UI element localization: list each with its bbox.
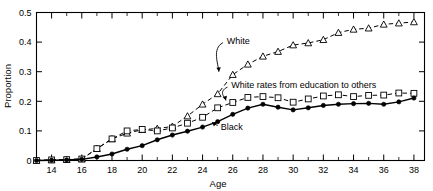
data-point-filled-circle — [80, 157, 84, 161]
data-point-open-square — [411, 90, 417, 96]
data-point-filled-circle — [200, 125, 204, 129]
y-tick-label: 0.2 — [19, 97, 32, 107]
data-point-open-square — [139, 127, 145, 133]
data-point-filled-circle — [231, 112, 235, 116]
y-tick-label: 0.3 — [19, 67, 32, 77]
x-tick-label: 30 — [288, 165, 298, 175]
data-point-open-triangle — [199, 101, 206, 107]
data-point-filled-circle — [351, 102, 355, 106]
data-point-filled-circle — [246, 106, 250, 110]
data-point-filled-circle — [412, 96, 416, 100]
data-point-filled-circle — [65, 158, 69, 162]
data-point-open-square — [230, 100, 236, 106]
data-series-group — [33, 19, 417, 164]
y-axis-label: Proportion — [2, 64, 13, 108]
series-markers — [33, 19, 417, 164]
data-point-open-square — [154, 128, 160, 134]
data-point-filled-circle — [95, 155, 99, 159]
y-tick-label: 0 — [26, 156, 31, 166]
data-point-open-square — [260, 94, 266, 100]
x-tick-label: 26 — [228, 165, 238, 175]
data-point-open-square — [109, 136, 115, 142]
x-tick-label: 34 — [349, 165, 359, 175]
chart-root: 00.10.20.30.40.5 14161820222426283032343… — [0, 0, 433, 191]
x-tick-label: 32 — [318, 165, 328, 175]
data-point-open-square — [336, 92, 342, 98]
data-point-open-square — [245, 95, 251, 101]
data-point-open-square — [396, 90, 402, 96]
data-point-filled-circle — [34, 158, 38, 162]
data-point-filled-circle — [185, 129, 189, 133]
data-point-filled-circle — [261, 102, 265, 106]
data-point-open-square — [200, 114, 206, 120]
data-point-filled-circle — [155, 138, 159, 142]
data-point-filled-circle — [49, 158, 53, 162]
data-point-open-square — [124, 128, 130, 134]
series-annotations: WhiteWhite rates from education to other… — [212, 36, 377, 132]
data-point-open-square — [305, 96, 311, 102]
data-point-open-square — [94, 146, 100, 152]
x-tick-label: 24 — [198, 165, 208, 175]
x-tick-label: 18 — [107, 165, 117, 175]
data-point-filled-circle — [336, 102, 340, 106]
data-point-open-square — [351, 94, 357, 100]
data-point-filled-circle — [306, 106, 310, 110]
annotation-label: White rates from education to others — [231, 80, 377, 90]
data-point-filled-circle — [276, 105, 280, 109]
annotation-label: White — [227, 36, 250, 46]
data-point-open-triangle — [244, 61, 251, 67]
x-tick-label: 22 — [167, 165, 177, 175]
y-tick-label: 0.5 — [19, 8, 32, 18]
series-1 — [33, 19, 417, 164]
x-axis-label: Age — [210, 178, 227, 189]
annotation-arrowhead — [216, 67, 220, 71]
x-tick-label: 36 — [379, 165, 389, 175]
data-point-filled-circle — [321, 103, 325, 107]
data-point-open-square — [185, 120, 191, 126]
data-point-open-triangle — [320, 36, 327, 42]
x-tick-label: 16 — [77, 165, 87, 175]
data-point-open-square — [275, 95, 281, 101]
annotation-leader-line — [216, 43, 223, 72]
data-point-open-square — [366, 92, 372, 98]
data-point-filled-circle — [110, 152, 114, 156]
data-point-open-square — [320, 93, 326, 99]
data-point-open-square — [169, 125, 175, 131]
data-point-filled-circle — [382, 102, 386, 106]
y-tick-label: 0.4 — [19, 37, 32, 47]
x-tick-label: 20 — [137, 165, 147, 175]
data-point-filled-circle — [125, 147, 129, 151]
data-point-filled-circle — [170, 133, 174, 137]
annotation-label: Black — [221, 122, 244, 132]
data-point-filled-circle — [367, 101, 371, 105]
y-tick-label: 0.1 — [19, 126, 32, 136]
x-tick-label: 14 — [47, 165, 57, 175]
data-point-open-square — [215, 105, 221, 111]
data-point-open-triangle — [275, 48, 282, 54]
x-tick-label: 28 — [258, 165, 268, 175]
series-line — [37, 22, 414, 161]
data-point-filled-circle — [140, 144, 144, 148]
x-tick-label: 38 — [409, 165, 419, 175]
data-point-open-triangle — [260, 53, 267, 59]
data-point-filled-circle — [291, 108, 295, 112]
data-point-open-triangle — [380, 21, 387, 27]
proportion-by-age-line-chart: 00.10.20.30.40.5 14161820222426283032343… — [0, 0, 433, 191]
data-point-filled-circle — [397, 100, 401, 104]
data-point-open-triangle — [229, 71, 236, 77]
data-point-open-square — [381, 92, 387, 98]
data-point-open-square — [290, 99, 296, 105]
